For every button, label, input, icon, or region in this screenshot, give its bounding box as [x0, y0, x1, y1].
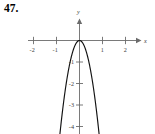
y-tick-label: -4	[69, 123, 74, 130]
figure-container: 47. x y -2 -1 1	[0, 0, 155, 134]
x-axis-label: x	[143, 37, 147, 44]
coordinate-plot: x y -2 -1 1 2 -1	[0, 0, 155, 134]
y-axis-group: y	[76, 8, 82, 134]
y-axis-arrowhead	[77, 19, 82, 25]
x-tick-group: -2 -1 1 2	[30, 37, 127, 53]
x-tick-label: 1	[101, 46, 104, 53]
x-tick-label: -1	[53, 46, 58, 53]
x-axis-arrowhead	[136, 38, 142, 43]
x-axis-group: x	[28, 37, 147, 44]
y-axis-label: y	[76, 8, 80, 15]
x-tick-label: 2	[124, 46, 127, 53]
y-tick-label: -2	[69, 80, 74, 87]
y-tick-group: -1 -2 -3 -4	[69, 58, 83, 130]
plot-svg: x y -2 -1 1 2 -1	[0, 0, 155, 134]
y-tick-label: -3	[69, 101, 74, 108]
x-tick-label: -2	[30, 46, 35, 53]
